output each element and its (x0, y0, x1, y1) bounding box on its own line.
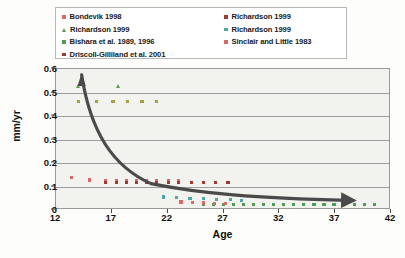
data-point (104, 181, 107, 184)
data-point (145, 181, 148, 184)
legend-swatch-square-icon (62, 40, 66, 44)
data-point (77, 100, 80, 103)
legend-swatch-square-icon (62, 15, 66, 19)
x-tick-mark (55, 209, 56, 213)
legend-item: Sinclair and Little 1983 (224, 36, 350, 48)
y-tick-mark (51, 115, 55, 116)
y-tick-mark (51, 138, 55, 139)
y-axis-label: mm/yr (10, 96, 22, 156)
legend-label: Sinclair and Little 1983 (232, 36, 312, 48)
data-point (167, 181, 170, 184)
y-tick-mark (51, 185, 55, 186)
data-point (224, 202, 227, 205)
legend-swatch-square-icon (62, 53, 66, 57)
data-point (111, 100, 114, 103)
gridline (56, 187, 389, 188)
legend-column-left: Bondevik 1998 Richardson 1999 Bishara et… (62, 11, 212, 61)
data-point (115, 181, 118, 184)
legend-item: Bondevik 1998 (62, 11, 212, 23)
data-point (190, 181, 193, 184)
data-point (213, 202, 216, 205)
x-tick-mark (223, 209, 224, 213)
x-tick-label: 17 (96, 212, 126, 223)
legend-label: Bondevik 1998 (70, 11, 122, 23)
gridline (56, 163, 389, 164)
chart-legend: Bondevik 1998 Richardson 1999 Bishara et… (55, 7, 347, 59)
data-point (126, 100, 129, 103)
data-point (179, 200, 182, 203)
gridline (56, 93, 389, 94)
legend-swatch-square-icon (224, 28, 228, 32)
legend-item: Bishara et al. 1989, 1996 (62, 36, 212, 48)
x-tick-label: 42 (375, 212, 405, 223)
y-tick-mark (51, 162, 55, 163)
y-tick-mark (51, 68, 55, 69)
chart-figure: Bondevik 1998 Richardson 1999 Bishara et… (0, 0, 405, 258)
data-point (312, 203, 315, 206)
x-axis-label: Age (55, 228, 390, 240)
y-tick-mark (51, 91, 55, 92)
data-point (95, 100, 98, 103)
x-tick-mark (167, 209, 168, 213)
x-tick-label: 12 (40, 212, 70, 223)
legend-column-right: Richardson 1999 Richardson 1999 Sinclair… (224, 11, 350, 49)
data-point (191, 201, 194, 204)
x-tick-label: 32 (263, 212, 293, 223)
data-point (282, 203, 285, 206)
data-point (343, 203, 346, 206)
gridline (56, 116, 389, 117)
x-tick-mark (111, 209, 112, 213)
data-point (140, 100, 143, 103)
data-point (125, 181, 128, 184)
data-point (292, 203, 295, 206)
data-point (177, 181, 180, 184)
legend-swatch-triangle-icon (62, 28, 66, 32)
data-point (202, 181, 205, 184)
x-tick-label: 37 (319, 212, 349, 223)
x-tick-mark (390, 209, 391, 213)
data-point (202, 197, 205, 200)
legend-item: Driscoll-Gilliland et al. 2001 (62, 49, 212, 61)
legend-label: Richardson 1999 (232, 11, 291, 23)
data-point (226, 181, 229, 184)
data-point (188, 197, 191, 200)
legend-swatch-square-icon (224, 40, 228, 44)
legend-label: Richardson 1999 (232, 24, 291, 36)
data-point (363, 203, 366, 206)
data-point (116, 84, 120, 88)
data-point (373, 203, 376, 206)
data-point (215, 198, 218, 201)
data-point (76, 84, 80, 88)
data-point (229, 198, 232, 201)
data-point (262, 203, 265, 206)
data-point (70, 176, 73, 179)
legend-label: Driscoll-Gilliland et al. 2001 (70, 49, 166, 61)
data-point (88, 178, 91, 181)
legend-swatch-square-icon (224, 15, 228, 19)
plot-area (55, 68, 390, 209)
legend-label: Richardson 1999 (70, 24, 129, 36)
data-point (155, 181, 158, 184)
legend-label: Bishara et al. 1989, 1996 (70, 36, 155, 48)
x-tick-label: 22 (152, 212, 182, 223)
data-point (232, 203, 235, 206)
data-point (252, 203, 255, 206)
data-point (332, 203, 335, 206)
data-point (135, 181, 138, 184)
data-point (155, 100, 158, 103)
x-tick-mark (334, 209, 335, 213)
legend-item: Richardson 1999 (62, 24, 212, 36)
data-point (214, 181, 217, 184)
data-point (322, 203, 325, 206)
data-point (302, 203, 305, 206)
data-point (242, 203, 245, 206)
data-point (240, 199, 243, 202)
data-point (353, 203, 356, 206)
data-point (162, 195, 165, 198)
legend-item: Richardson 1999 (224, 11, 350, 23)
gridline (56, 140, 389, 141)
x-tick-mark (278, 209, 279, 213)
legend-item: Richardson 1999 (224, 24, 350, 36)
data-point (175, 196, 178, 199)
x-tick-label: 27 (208, 212, 238, 223)
